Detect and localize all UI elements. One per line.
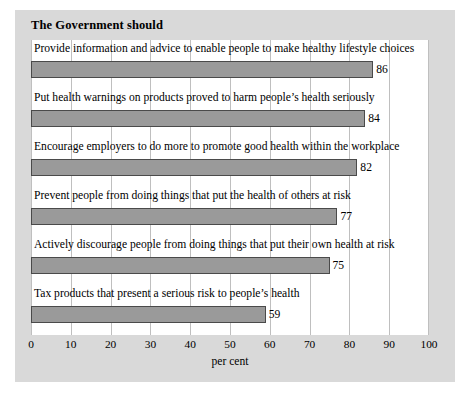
- bar-value-label: 86: [376, 62, 388, 77]
- chart-figure: The Government should Provide informatio…: [0, 0, 470, 401]
- bar[interactable]: [31, 159, 357, 176]
- plot-area: Provide information and advice to enable…: [31, 40, 429, 335]
- bar[interactable]: [31, 61, 373, 78]
- x-tick-label: 50: [224, 338, 235, 350]
- bar-category-label: Actively discourage people from doing th…: [34, 237, 395, 253]
- x-tick-label: 30: [145, 338, 156, 350]
- x-tick-label: 0: [28, 338, 34, 350]
- bar-row: Actively discourage people from doing th…: [31, 236, 429, 285]
- bar-row: Tax products that present a serious risk…: [31, 285, 429, 334]
- bar[interactable]: [31, 257, 330, 274]
- bar-category-label: Provide information and advice to enable…: [34, 41, 414, 57]
- bar-category-label: Prevent people from doing things that pu…: [34, 188, 351, 204]
- x-tick-label: 90: [383, 338, 394, 350]
- bar-category-label: Tax products that present a serious risk…: [34, 286, 299, 302]
- bar-row: Provide information and advice to enable…: [31, 40, 429, 89]
- x-tick-label: 100: [420, 338, 437, 350]
- bar-value-label: 59: [269, 307, 281, 322]
- bar[interactable]: [31, 110, 365, 127]
- x-tick-label: 10: [65, 338, 76, 350]
- bar-category-label: Encourage employers to do more to promot…: [34, 139, 399, 155]
- x-axis-label: per cent: [31, 355, 429, 368]
- x-tick-label: 70: [304, 338, 315, 350]
- bar-row: Prevent people from doing things that pu…: [31, 187, 429, 236]
- x-tick-label: 40: [184, 338, 195, 350]
- bar-value-label: 75: [333, 258, 345, 273]
- x-tick-label: 20: [105, 338, 116, 350]
- bar-value-label: 77: [340, 209, 352, 224]
- x-axis: 0102030405060708090100: [31, 336, 429, 354]
- x-tick-label: 60: [264, 338, 275, 350]
- bar-value-label: 82: [360, 160, 372, 175]
- bar[interactable]: [31, 208, 337, 225]
- chart-title: The Government should: [31, 18, 163, 33]
- bar-row: Put health warnings on products proved t…: [31, 89, 429, 138]
- bar-category-label: Put health warnings on products proved t…: [34, 90, 375, 106]
- bar[interactable]: [31, 306, 266, 323]
- x-tick-label: 80: [344, 338, 355, 350]
- bar-row: Encourage employers to do more to promot…: [31, 138, 429, 187]
- bar-value-label: 84: [368, 111, 380, 126]
